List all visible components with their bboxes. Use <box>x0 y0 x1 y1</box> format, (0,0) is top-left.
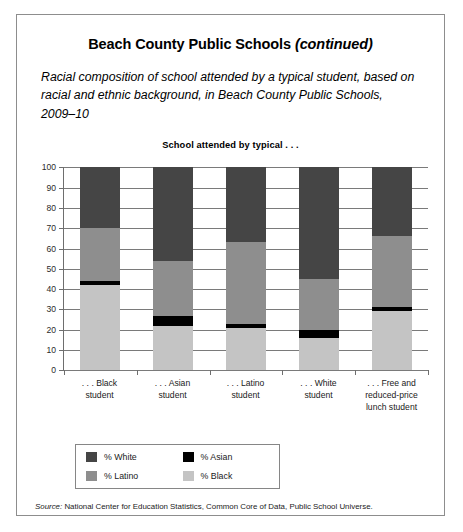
x-axis-labels: . . . Blackstudent. . . Asianstudent. . … <box>63 378 428 413</box>
y-axis-tick-label: 100 <box>42 162 56 172</box>
bar-column[interactable] <box>153 167 193 370</box>
legend-label: % Black <box>201 471 233 481</box>
title-continued: (continued) <box>295 36 373 52</box>
bar-segment[interactable] <box>299 167 339 279</box>
legend-swatch-icon <box>86 452 97 462</box>
figure-subtitle: Racial composition of school attended by… <box>41 68 420 123</box>
bar-segment[interactable] <box>299 338 339 370</box>
y-axis-tick-label: 30 <box>46 304 56 314</box>
x-axis-label: . . . Blackstudent <box>63 378 136 413</box>
bar-column[interactable] <box>80 167 120 370</box>
x-axis-label-line: . . . Asian <box>136 378 209 390</box>
bar-segment[interactable] <box>226 167 266 242</box>
x-axis-label-line: . . . Black <box>63 378 136 390</box>
y-axis-tick-label: 80 <box>46 203 56 213</box>
bar-segment[interactable] <box>153 326 193 371</box>
x-axis-label-line: . . . White <box>282 378 355 390</box>
x-axis-ticks <box>64 370 428 375</box>
bar-column[interactable] <box>226 167 266 370</box>
x-axis-label: . . . Free andreduced-pricelunch student <box>355 378 428 413</box>
x-axis-tick <box>137 370 138 375</box>
legend-item[interactable]: % Latino <box>86 471 183 481</box>
bar-segment[interactable] <box>372 236 412 307</box>
bar-segment[interactable] <box>372 167 412 236</box>
bar-segment[interactable] <box>299 279 339 330</box>
chart-legend: % White% Asian% Latino% Black <box>75 444 280 489</box>
y-axis-tick-label: 10 <box>46 345 56 355</box>
bar-segment[interactable] <box>80 285 120 370</box>
x-axis-label: . . . Asianstudent <box>136 378 209 413</box>
source-note: Source: National Center for Education St… <box>35 502 426 512</box>
x-axis-tick <box>282 370 283 375</box>
x-axis-label-line: lunch student <box>355 402 428 414</box>
y-axis-tick-label: 70 <box>46 223 56 233</box>
legend-item[interactable]: % Black <box>183 471 280 481</box>
y-axis-tick-label: 60 <box>46 244 56 254</box>
y-axis-tick-label: 20 <box>46 325 56 335</box>
x-axis-label-line: student <box>282 390 355 402</box>
legend-swatch-icon <box>183 452 194 462</box>
page-title: Beach County Public Schools (continued) <box>17 36 444 52</box>
x-axis-label-line: . . . Latino <box>209 378 282 390</box>
plot-region: 1009080706050403020100 <box>63 167 428 371</box>
x-axis-tick <box>355 370 356 375</box>
legend-item[interactable]: % Asian <box>183 452 280 462</box>
x-axis-tick <box>428 370 429 375</box>
legend-swatch-icon <box>183 471 194 481</box>
bar-column[interactable] <box>299 167 339 370</box>
legend-label: % Asian <box>201 452 233 462</box>
y-axis-tick-label: 50 <box>46 264 56 274</box>
bar-segment[interactable] <box>153 316 193 326</box>
bar-segment[interactable] <box>80 167 120 228</box>
figure-panel: Beach County Public Schools (continued) … <box>16 14 445 516</box>
bar-series-group <box>64 167 428 370</box>
chart-area: 1009080706050403020100 . . . Blackstuden… <box>17 159 444 384</box>
x-axis-label: . . . Latinostudent <box>209 378 282 413</box>
y-axis-tick-label: 90 <box>46 183 56 193</box>
y-axis-tick-label: 40 <box>46 284 56 294</box>
x-axis-label: . . . Whitestudent <box>282 378 355 413</box>
chart-title: School attended by typical . . . <box>17 140 444 150</box>
legend-label: % White <box>104 452 137 462</box>
x-axis-label-line: reduced-price <box>355 390 428 402</box>
x-axis-label-line: . . . Free and <box>355 378 428 390</box>
legend-label: % Latino <box>104 471 138 481</box>
bar-column[interactable] <box>372 167 412 370</box>
legend-swatch-icon <box>86 471 97 481</box>
bar-segment[interactable] <box>226 328 266 371</box>
source-label: Source: <box>35 502 62 511</box>
legend-item[interactable]: % White <box>86 452 183 462</box>
bar-segment[interactable] <box>299 330 339 338</box>
x-axis-label-line: student <box>63 390 136 402</box>
y-axis-tick-label: 0 <box>51 365 56 375</box>
title-main: Beach County Public Schools <box>88 36 291 52</box>
x-axis-tick <box>64 370 65 375</box>
bar-segment[interactable] <box>372 311 412 370</box>
x-axis-tick <box>210 370 211 375</box>
x-axis-label-line: student <box>136 390 209 402</box>
source-text: National Center for Education Statistics… <box>62 502 373 511</box>
bar-segment[interactable] <box>80 228 120 281</box>
x-axis-label-line: student <box>209 390 282 402</box>
bar-segment[interactable] <box>226 242 266 323</box>
bar-segment[interactable] <box>153 261 193 316</box>
bar-segment[interactable] <box>153 167 193 260</box>
